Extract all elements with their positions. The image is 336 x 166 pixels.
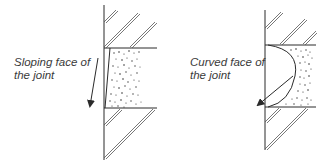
upper-brick-hatch — [265, 12, 317, 45]
sloping-label-line-2: the joint — [14, 69, 90, 82]
curved-joint-panel — [258, 10, 317, 150]
sloping-face-line — [105, 48, 110, 108]
slope-direction-arrow — [90, 58, 98, 106]
joint-diagram — [0, 0, 336, 166]
mortar-fill — [109, 50, 141, 107]
curved-label-line-1: Curved face of — [190, 56, 265, 69]
lower-brick-hatch — [104, 109, 155, 159]
curved-face-line — [268, 45, 296, 107]
lower-brick-hatch — [265, 108, 308, 150]
mortar-fill — [285, 48, 312, 105]
upper-brick-hatch — [104, 10, 157, 48]
sloping-face-label: Sloping face of the joint — [14, 56, 90, 82]
curved-label-line-2: the joint — [190, 69, 265, 82]
sloping-joint-panel — [90, 5, 157, 160]
curved-face-label: Curved face of the joint — [190, 56, 265, 82]
sloping-label-line-1: Sloping face of — [14, 56, 90, 69]
